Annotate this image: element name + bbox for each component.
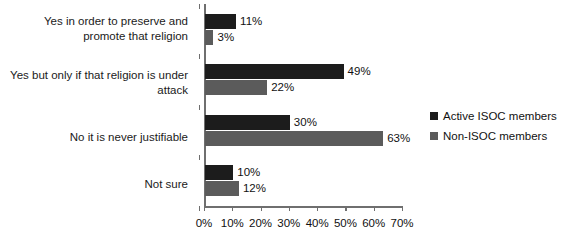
x-axis-tick <box>345 206 346 211</box>
bar-chart: Yes in order to preserve and promote tha… <box>0 0 564 237</box>
category-label-1-text: Yes but only if that religion is under a… <box>10 69 188 96</box>
bar-value-label-2-0: 30% <box>294 116 317 128</box>
category-label-3-text: Not sure <box>145 178 188 190</box>
y-axis-tick <box>199 206 200 211</box>
x-axis-tick <box>289 206 290 211</box>
bar-value-label-0-0: 11% <box>240 15 262 27</box>
category-label-2: No it is never justifiable <box>0 130 196 145</box>
x-axis-tick <box>374 206 375 211</box>
category-label-2-text: No it is never justifiable <box>70 131 188 143</box>
legend-item-1[interactable]: Non-ISOC members <box>430 126 557 146</box>
legend: Active ISOC members Non-ISOC members <box>430 106 557 146</box>
legend-item-1-label: Non-ISOC members <box>443 130 547 142</box>
bar-value-label-3-1: 12% <box>243 182 266 194</box>
bar-value-label-1-1: 22% <box>271 81 294 93</box>
bar-3-0 <box>205 165 233 180</box>
category-label-0: Yes in order to preserve and promote tha… <box>0 14 196 43</box>
bar-value-label-1-0: 49% <box>348 65 371 77</box>
y-axis-tick <box>199 155 200 160</box>
bar-0-0 <box>205 14 236 29</box>
bar-1-1 <box>205 80 267 95</box>
plot-area: 11%3%49%22%30%63%10%12% <box>204 4 403 206</box>
bar-2-1 <box>205 131 383 146</box>
legend-swatch-icon <box>430 112 438 120</box>
y-axis-tick <box>199 105 200 110</box>
bar-0-1 <box>205 30 213 45</box>
x-axis-tick <box>261 206 262 211</box>
x-axis-tick-label-7: 70% <box>382 217 422 229</box>
category-label-1: Yes but only if that religion is under a… <box>0 68 196 97</box>
bar-value-label-2-1: 63% <box>387 132 410 144</box>
legend-swatch-icon <box>430 132 438 140</box>
bar-value-label-3-0: 10% <box>237 166 260 178</box>
legend-item-0[interactable]: Active ISOC members <box>430 106 557 126</box>
bar-2-0 <box>205 115 290 130</box>
bar-value-label-0-1: 3% <box>217 31 234 43</box>
y-axis-tick <box>199 54 200 59</box>
x-axis-tick <box>317 206 318 211</box>
y-axis-tick <box>199 4 200 9</box>
category-label-0-text: Yes in order to preserve and promote tha… <box>44 15 188 42</box>
x-axis-tick <box>232 206 233 211</box>
x-axis-tick <box>402 206 403 211</box>
x-axis-tick <box>204 206 205 211</box>
legend-item-0-label: Active ISOC members <box>443 110 557 122</box>
bar-3-1 <box>205 181 239 196</box>
bar-1-0 <box>205 64 344 79</box>
category-label-3: Not sure <box>0 177 196 192</box>
